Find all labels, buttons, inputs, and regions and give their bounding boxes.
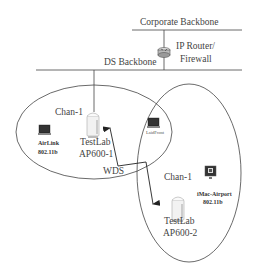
access-point-icon-ap1 bbox=[87, 113, 99, 138]
ap2-model-label: AP600-2 bbox=[163, 229, 197, 239]
wds-arrow-down bbox=[146, 162, 153, 204]
airlink-name-label: AirLink bbox=[38, 140, 59, 146]
cell1-channel-label: Chan-1 bbox=[55, 108, 83, 118]
network-diagram: Corporate Backbone DS Backbone IP Router… bbox=[0, 0, 256, 277]
corporate-backbone-label: Corporate Backbone bbox=[140, 18, 218, 28]
cell2-channel-label: Chan-1 bbox=[164, 173, 192, 183]
laidfront-name-label: LaidFront bbox=[146, 131, 164, 136]
laptop-icon-laidfront bbox=[147, 118, 160, 128]
router-icon bbox=[158, 48, 170, 58]
ds-backbone-label: DS Backbone bbox=[104, 58, 157, 68]
ap2-name-label: TestLab bbox=[164, 217, 194, 227]
router-label-line1: IP Router/ bbox=[176, 42, 215, 52]
wds-arrow-up bbox=[110, 128, 118, 166]
diagram-wires bbox=[0, 0, 256, 277]
imac-name-label: iMac-Airport bbox=[197, 191, 232, 197]
imac-standard-label: 802.11b bbox=[203, 199, 223, 205]
laptop-icon-airlink bbox=[38, 125, 51, 135]
imac-icon bbox=[205, 166, 216, 179]
router-label-line2: Firewall bbox=[180, 55, 212, 65]
ap1-name-label: TestLab bbox=[80, 138, 110, 148]
airlink-standard-label: 802.11b bbox=[38, 149, 58, 155]
ap1-model-label: AP600-1 bbox=[79, 150, 113, 160]
wds-link-label: WDS bbox=[103, 167, 124, 177]
